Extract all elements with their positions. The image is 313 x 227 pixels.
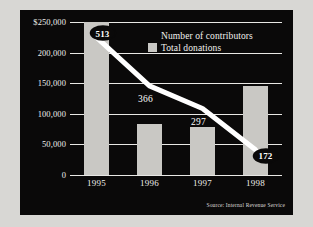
x-axis-tick-label: 1997 — [193, 178, 212, 188]
y-axis-tick-label: 0 — [62, 170, 66, 180]
y-axis-tick-label: 150,000 — [38, 78, 66, 88]
y-axis-tick-label: 200,000 — [38, 48, 66, 58]
legend: Number of contributorsTotal donations — [148, 30, 278, 54]
source-note: Source: Internal Revenue Service — [206, 202, 285, 208]
data-label-1997: 297 — [191, 117, 206, 127]
gridline — [70, 175, 282, 176]
legend-label: Total donations — [161, 43, 221, 53]
y-axis-tick-label: $250,000 — [33, 17, 66, 27]
x-axis: 1995199619971998 — [70, 178, 282, 192]
y-axis-tick-label: 100,000 — [38, 109, 66, 119]
legend-item-0: Number of contributors — [148, 30, 278, 41]
y-axis-tick-label: 50,000 — [42, 139, 66, 149]
data-label-1996: 366 — [138, 94, 153, 104]
chart-screenshot: $250,000200,000150,000100,00050,0000 513… — [0, 0, 313, 227]
x-axis-tick-label: 1995 — [87, 178, 106, 188]
x-axis-tick-label: 1998 — [246, 178, 265, 188]
data-label-1995: 513 — [90, 27, 114, 40]
data-label-1998: 172 — [253, 149, 277, 162]
legend-swatch-icon — [148, 43, 157, 52]
legend-label: Number of contributors — [161, 31, 253, 41]
legend-item-1: Total donations — [148, 42, 278, 53]
chart-panel: $250,000200,000150,000100,00050,0000 513… — [20, 10, 293, 215]
x-axis-tick-label: 1996 — [140, 178, 159, 188]
legend-spacer-icon — [148, 31, 157, 40]
y-axis: $250,000200,000150,000100,00050,0000 — [20, 22, 66, 175]
